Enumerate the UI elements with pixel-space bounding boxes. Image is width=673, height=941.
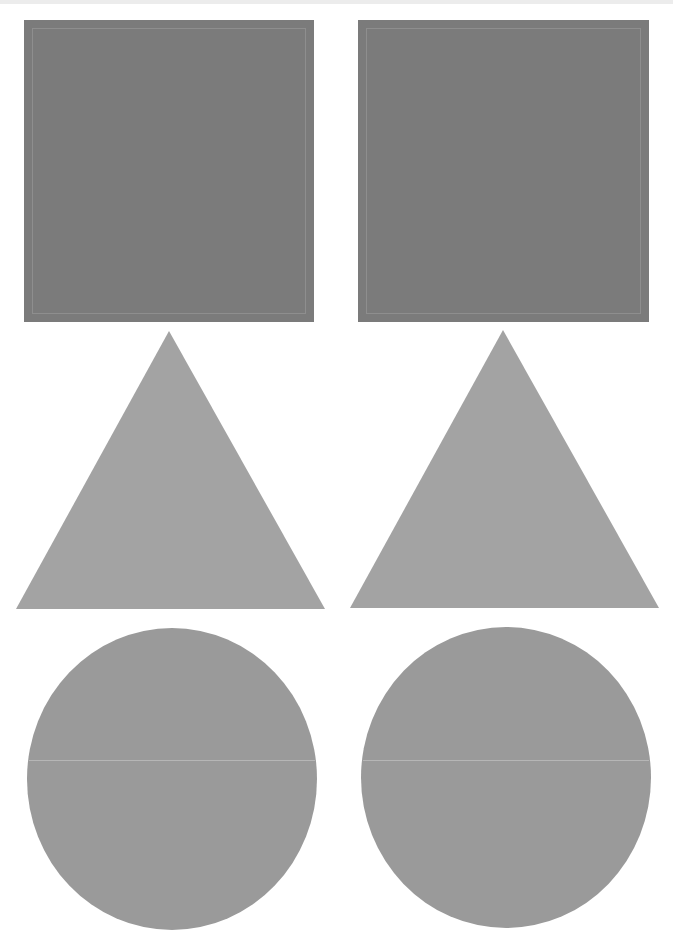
shape-label: Circle <box>27 930 28 931</box>
triangle-shape-icon <box>350 330 659 608</box>
circle-shape-icon <box>27 628 317 930</box>
fold-line <box>363 760 649 761</box>
circle-left: Circle <box>27 628 317 930</box>
shape-label: Triangle <box>350 608 351 609</box>
square-inner-border <box>32 28 306 314</box>
fold-line <box>29 760 315 761</box>
shape-label: Square <box>358 20 359 21</box>
square-inner-border <box>366 28 641 314</box>
triangle-shape-icon <box>16 331 325 609</box>
circle-shape-icon <box>361 627 651 928</box>
triangle-left: Triangle <box>16 331 325 609</box>
triangle-right: Triangle <box>350 330 659 608</box>
shape-label: Circle <box>361 928 362 929</box>
shape-label: Square <box>24 20 25 21</box>
top-band <box>0 0 673 4</box>
circle-right: Circle <box>361 627 651 928</box>
shape-label: Triangle <box>16 609 17 610</box>
square-left: Square <box>24 20 314 322</box>
square-right: Square <box>358 20 649 322</box>
